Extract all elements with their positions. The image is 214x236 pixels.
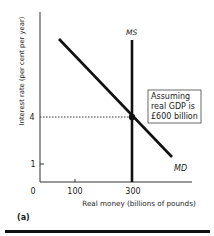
panel-label: (a): [17, 213, 30, 222]
y-tick-label-1: 1: [30, 160, 35, 169]
x-tick-label-0: 0: [30, 187, 35, 196]
x-tick-label-100: 100: [67, 187, 82, 196]
y-axis-title: Interest rate (per cent per year): [18, 16, 26, 125]
money-market-chart: Assuming real GDP is £600 billion MS MD …: [0, 0, 214, 236]
y-tick-label-4: 4: [29, 113, 34, 122]
md-label: MD: [174, 164, 187, 173]
annotation-line-2: real GDP is: [151, 102, 195, 111]
annotation-line-1: Assuming: [151, 92, 190, 101]
annotation-line-3: £600 billion: [151, 112, 198, 121]
x-axis-title: Real money (billions of pounds): [82, 199, 196, 208]
equilibrium-point: [129, 114, 135, 120]
x-tick-label-300: 300: [125, 187, 140, 196]
ms-label: MS: [126, 28, 137, 37]
bottom-rule: [5, 230, 210, 233]
